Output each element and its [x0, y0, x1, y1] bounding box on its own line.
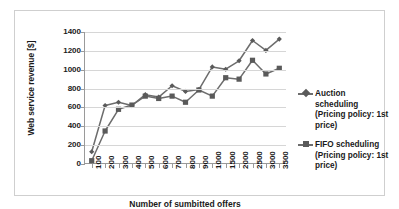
plot-area: [85, 32, 286, 164]
x-axis-tick-mark: [92, 164, 93, 168]
x-axis-tick-mark: [105, 164, 106, 168]
gridline: [85, 32, 286, 33]
gridline: [85, 145, 286, 146]
legend-entry-1[interactable]: Auctionscheduling(Pricing policy: 1stpri…: [298, 89, 398, 131]
x-axis-tick-label: 2500: [256, 151, 264, 169]
data-point-marker: [143, 94, 148, 99]
x-axis-tick-mark: [253, 164, 254, 168]
chart-screenshot: Web service revenue [$] 0200400600800100…: [0, 0, 399, 209]
x-axis-tick-label: 3000: [269, 151, 277, 169]
chart-legend: Auctionscheduling(Pricing policy: 1stpri…: [298, 89, 398, 181]
x-axis-tick-mark: [119, 164, 120, 168]
x-axis-tick-label: 100: [95, 156, 103, 169]
legend-label-line: (Pricing policy: 1st: [315, 110, 398, 121]
data-point-marker: [170, 94, 175, 99]
data-point-marker: [116, 100, 121, 105]
y-axis-tick-label: 0: [39, 160, 81, 168]
data-point-marker: [250, 58, 255, 63]
y-axis-tick-mark: [81, 164, 85, 165]
x-axis-tick-label: 500: [148, 156, 156, 169]
y-axis-tick-label: 600: [39, 103, 81, 111]
data-point-marker: [103, 128, 108, 133]
legend-label-line: price): [315, 161, 398, 172]
y-axis-tick-label: 200: [39, 141, 81, 149]
x-axis-tick-label: 3500: [282, 151, 290, 169]
x-axis-tick-mark: [172, 164, 173, 168]
x-axis-tick-label: 2000: [242, 151, 250, 169]
x-axis-tick-label: 900: [202, 156, 210, 169]
legend-label: FIFO scheduling(Pricing policy: 1stprice…: [315, 140, 398, 172]
data-point-marker: [263, 71, 268, 76]
x-axis-tick-label: 1500: [229, 151, 237, 169]
x-axis-tick-label: 800: [189, 156, 197, 169]
legend-label-line: FIFO scheduling: [315, 140, 398, 151]
data-point-marker: [183, 100, 188, 105]
y-axis-tick-mark: [81, 126, 85, 127]
x-axis-tick-mark: [199, 164, 200, 168]
x-axis-tick-mark: [186, 164, 187, 168]
gridline: [85, 126, 286, 127]
y-axis-title: Web service revenue [$]: [26, 28, 36, 148]
x-axis-tick-mark: [132, 164, 133, 168]
y-axis-tick-mark: [81, 107, 85, 108]
gridline: [85, 51, 286, 52]
x-axis-tick-label: 700: [175, 156, 183, 169]
y-axis-tick-mark: [81, 89, 85, 90]
x-axis-tick-mark: [159, 164, 160, 168]
x-axis-tick-label: 1000: [215, 151, 223, 169]
data-point-marker: [183, 89, 188, 94]
x-axis-tick-label: 400: [135, 156, 143, 169]
gridline: [85, 70, 286, 71]
data-point-marker: [237, 77, 242, 82]
x-axis-title: Number of sumbitted offers: [75, 199, 295, 209]
legend-label-line: price): [315, 121, 398, 132]
x-axis-tick-label: 600: [162, 156, 170, 169]
x-axis-tick-mark: [226, 164, 227, 168]
legend-square-marker-icon: [298, 144, 313, 146]
y-axis-tick-label: 1200: [39, 47, 81, 55]
y-axis-tick-mark: [81, 51, 85, 52]
legend-label: Auctionscheduling(Pricing policy: 1stpri…: [315, 89, 398, 131]
y-axis-tick-label: 800: [39, 85, 81, 93]
data-point-marker: [223, 75, 228, 80]
chart-frame: Web service revenue [$] 0200400600800100…: [14, 10, 385, 196]
y-axis-tick-label: 1400: [39, 28, 81, 36]
y-axis-tick-label: 1000: [39, 66, 81, 74]
data-point-marker: [156, 96, 161, 101]
x-axis-tick-label: 200: [108, 156, 116, 169]
y-axis-tick-mark: [81, 32, 85, 33]
y-axis-tick-mark: [81, 70, 85, 71]
series-line-1: [92, 39, 280, 152]
gridline: [85, 107, 286, 108]
gridline: [85, 89, 286, 90]
legend-label-line: Auction: [315, 89, 398, 100]
legend-label-line: (Pricing policy: 1st: [315, 151, 398, 162]
data-point-marker: [210, 94, 215, 99]
y-axis-tick-mark: [81, 145, 85, 146]
y-axis-tick-labels: 0200400600800100012001400: [37, 11, 81, 209]
data-point-marker: [89, 149, 94, 154]
x-axis-tick-mark: [266, 164, 267, 168]
legend-label-line: scheduling: [315, 100, 398, 111]
y-axis-tick-label: 400: [39, 122, 81, 130]
x-axis-tick-label: 300: [122, 156, 130, 169]
x-axis-tick-mark: [239, 164, 240, 168]
legend-diamond-marker-icon: [298, 93, 313, 95]
legend-entry-2[interactable]: FIFO scheduling(Pricing policy: 1stprice…: [298, 140, 398, 172]
